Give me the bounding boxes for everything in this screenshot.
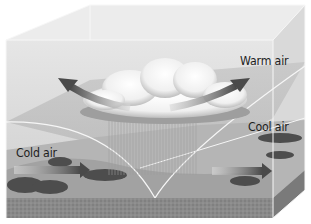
cool-air-label: Cool air bbox=[248, 119, 289, 134]
cold-air-label: Cold air bbox=[16, 145, 57, 160]
cold-air-arrow bbox=[14, 166, 80, 174]
cool-air-arrow bbox=[212, 167, 262, 175]
occluded-front-diagram: Warm air Cool air Cold air bbox=[0, 0, 311, 224]
warm-air-label: Warm air bbox=[240, 53, 288, 68]
rain bbox=[108, 120, 198, 175]
block-diagram bbox=[0, 0, 311, 224]
soil-layer bbox=[6, 198, 273, 218]
